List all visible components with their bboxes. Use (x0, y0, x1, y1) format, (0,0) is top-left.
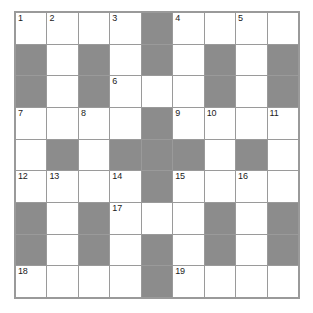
crossword-letter-cell[interactable]: 14 (110, 171, 140, 202)
crossword-letter-cell[interactable] (110, 108, 140, 139)
crossword-letter-cell[interactable] (47, 203, 77, 234)
crossword-letter-cell[interactable] (142, 76, 172, 107)
clue-number: 5 (238, 13, 243, 24)
clue-number: 11 (270, 108, 279, 119)
clue-number: 13 (49, 171, 59, 182)
crossword-letter-cell[interactable]: 7 (16, 108, 46, 139)
clue-number: 4 (175, 13, 180, 24)
crossword-block-cell (142, 171, 172, 202)
crossword-letter-cell[interactable]: 19 (173, 266, 203, 297)
crossword-letter-cell[interactable]: 12 (16, 171, 46, 202)
clue-number: 6 (112, 76, 117, 87)
clue-number: 3 (112, 13, 117, 24)
crossword-letter-cell[interactable]: 16 (236, 171, 266, 202)
crossword-block-cell (268, 76, 298, 107)
crossword-block-cell (142, 140, 172, 171)
crossword-block-cell (16, 203, 46, 234)
crossword-block-cell (79, 235, 109, 266)
crossword-letter-cell[interactable] (110, 235, 140, 266)
crossword-block-cell (236, 140, 266, 171)
crossword-letter-cell[interactable] (236, 45, 266, 76)
crossword-letter-cell[interactable] (79, 171, 109, 202)
crossword-letter-cell[interactable] (236, 235, 266, 266)
crossword-letter-cell[interactable] (47, 76, 77, 107)
crossword-letter-cell[interactable]: 18 (16, 266, 46, 297)
crossword-block-cell (268, 45, 298, 76)
crossword-block-cell (16, 235, 46, 266)
crossword-letter-cell[interactable] (173, 45, 203, 76)
crossword-block-cell (205, 45, 235, 76)
crossword-letter-cell[interactable] (47, 45, 77, 76)
crossword-block-cell (205, 203, 235, 234)
crossword-letter-cell[interactable] (79, 266, 109, 297)
clue-number: 8 (81, 108, 86, 119)
clue-number: 9 (175, 108, 180, 119)
crossword-letter-cell[interactable] (16, 140, 46, 171)
crossword-letter-cell[interactable] (79, 140, 109, 171)
clue-number: 2 (49, 13, 54, 24)
crossword-block-cell (79, 76, 109, 107)
crossword-block-cell (79, 203, 109, 234)
crossword-letter-cell[interactable] (268, 140, 298, 171)
crossword-block-cell (142, 266, 172, 297)
clue-number: 18 (18, 266, 28, 277)
clue-number: 14 (112, 171, 122, 182)
crossword-letter-cell[interactable]: 15 (173, 171, 203, 202)
crossword-letter-cell[interactable]: 9 (173, 108, 203, 139)
crossword-letter-cell[interactable]: 4 (173, 13, 203, 44)
crossword-block-cell (142, 108, 172, 139)
crossword-letter-cell[interactable] (110, 45, 140, 76)
crossword-letter-cell[interactable] (236, 108, 266, 139)
crossword-block-cell (268, 203, 298, 234)
crossword-block-cell (173, 140, 203, 171)
crossword-block-cell (79, 45, 109, 76)
crossword-block-cell (110, 140, 140, 171)
crossword-letter-cell[interactable] (173, 203, 203, 234)
crossword-puzzle: 12345678910111213141516171819 (0, 0, 313, 313)
crossword-block-cell (205, 76, 235, 107)
crossword-letter-cell[interactable]: 17 (110, 203, 140, 234)
crossword-letter-cell[interactable]: 10 (205, 108, 235, 139)
clue-number: 12 (18, 171, 28, 182)
crossword-block-cell (268, 235, 298, 266)
crossword-grid: 12345678910111213141516171819 (14, 11, 300, 299)
crossword-letter-cell[interactable] (268, 266, 298, 297)
crossword-letter-cell[interactable] (47, 266, 77, 297)
crossword-block-cell (142, 13, 172, 44)
crossword-letter-cell[interactable]: 11 (268, 108, 298, 139)
clue-number: 16 (238, 171, 248, 182)
clue-number: 17 (112, 203, 122, 214)
crossword-letter-cell[interactable] (142, 203, 172, 234)
crossword-letter-cell[interactable] (205, 13, 235, 44)
crossword-letter-cell[interactable] (79, 13, 109, 44)
crossword-letter-cell[interactable]: 3 (110, 13, 140, 44)
crossword-letter-cell[interactable] (268, 13, 298, 44)
crossword-letter-cell[interactable] (236, 203, 266, 234)
clue-number: 1 (18, 13, 23, 24)
crossword-letter-cell[interactable]: 6 (110, 76, 140, 107)
crossword-letter-cell[interactable]: 5 (236, 13, 266, 44)
clue-number: 10 (207, 108, 217, 119)
crossword-letter-cell[interactable] (205, 140, 235, 171)
crossword-block-cell (142, 235, 172, 266)
crossword-letter-cell[interactable]: 1 (16, 13, 46, 44)
crossword-letter-cell[interactable]: 13 (47, 171, 77, 202)
crossword-letter-cell[interactable] (173, 76, 203, 107)
crossword-letter-cell[interactable]: 8 (79, 108, 109, 139)
crossword-letter-cell[interactable] (47, 108, 77, 139)
clue-number: 7 (18, 108, 23, 119)
clue-number: 15 (175, 171, 185, 182)
crossword-letter-cell[interactable] (205, 171, 235, 202)
crossword-letter-cell[interactable]: 2 (47, 13, 77, 44)
crossword-letter-cell[interactable] (47, 235, 77, 266)
crossword-letter-cell[interactable] (205, 266, 235, 297)
crossword-block-cell (205, 235, 235, 266)
crossword-letter-cell[interactable] (236, 76, 266, 107)
crossword-block-cell (16, 45, 46, 76)
crossword-letter-cell[interactable] (236, 266, 266, 297)
crossword-block-cell (16, 76, 46, 107)
crossword-block-cell (47, 140, 77, 171)
crossword-letter-cell[interactable] (173, 235, 203, 266)
crossword-letter-cell[interactable] (110, 266, 140, 297)
crossword-letter-cell[interactable] (268, 171, 298, 202)
